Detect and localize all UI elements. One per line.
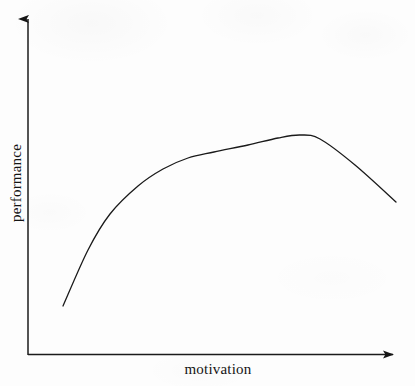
chart-plot: [0, 0, 415, 386]
figure-canvas: performance motivation: [0, 0, 415, 386]
x-axis-label: motivation: [185, 361, 252, 378]
y-axis-label: performance: [8, 144, 25, 222]
performance-curve: [63, 135, 396, 306]
